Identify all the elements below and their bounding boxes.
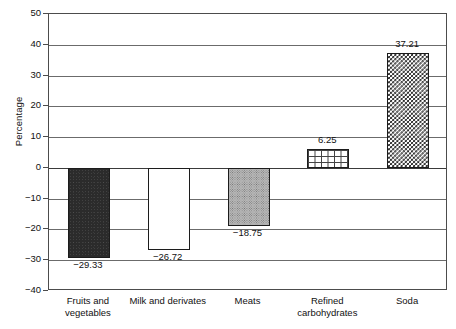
y-tick-label: −30 <box>1 254 41 264</box>
y-tick-mark <box>43 290 48 291</box>
y-tick-label: 30 <box>1 70 41 80</box>
bar-chart-figure: Percentage 50403020100−10−20−30−40−29.33… <box>0 0 456 329</box>
y-tick-label: 20 <box>1 101 41 111</box>
y-tick-mark <box>43 105 48 106</box>
bar-value-label: −29.33 <box>48 260 128 270</box>
bar-value-label: −18.75 <box>208 228 288 238</box>
bar[interactable] <box>387 53 429 168</box>
y-tick-label: −10 <box>1 193 41 203</box>
bar-value-label: 37.21 <box>367 39 447 49</box>
y-tick-label: −20 <box>1 224 41 234</box>
y-tick-mark <box>43 136 48 137</box>
plot-area <box>48 13 447 290</box>
bar[interactable] <box>68 168 110 258</box>
y-tick-label: −40 <box>1 285 41 295</box>
y-tick-mark <box>43 198 48 199</box>
y-tick-mark <box>43 228 48 229</box>
y-tick-mark <box>43 44 48 45</box>
bar-value-label: 6.25 <box>287 135 367 145</box>
y-tick-mark <box>43 13 48 14</box>
bar[interactable] <box>307 149 349 168</box>
y-tick-label: 50 <box>1 8 41 18</box>
bar[interactable] <box>228 168 270 226</box>
y-tick-mark <box>43 167 48 168</box>
y-axis-title: Percentage <box>13 77 24 167</box>
y-tick-label: 0 <box>1 162 41 172</box>
y-tick-mark <box>43 75 48 76</box>
y-tick-label: 10 <box>1 131 41 141</box>
x-axis-category-label: Soda <box>358 295 456 307</box>
bar[interactable] <box>148 168 190 250</box>
bar-value-label: −26.72 <box>128 252 208 262</box>
y-tick-label: 40 <box>1 39 41 49</box>
